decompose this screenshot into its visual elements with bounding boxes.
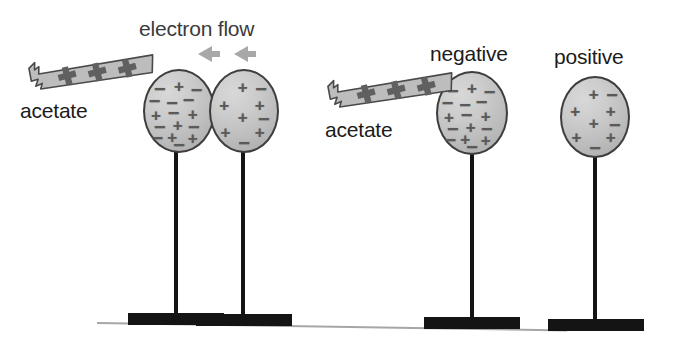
charge-minus-icon: − bbox=[238, 133, 250, 153]
stand-4-pole bbox=[593, 157, 597, 321]
label-negative: negative bbox=[430, 43, 508, 64]
electron-flow-arrows bbox=[186, 44, 258, 64]
charge-plus-icon: + bbox=[219, 96, 229, 113]
charge-minus-icon: − bbox=[151, 128, 163, 148]
charge-plus-icon: + bbox=[238, 79, 248, 96]
label-acetate-right: acetate bbox=[325, 119, 393, 140]
charge-plus-icon: + bbox=[255, 123, 265, 140]
sphere-4-positive[interactable]: +−+++−++− bbox=[560, 76, 630, 158]
charge-plus-icon: + bbox=[589, 85, 599, 102]
charge-minus-icon: − bbox=[589, 138, 601, 158]
charge-minus-icon: − bbox=[173, 135, 185, 155]
stand-2-pole bbox=[241, 150, 245, 316]
charge-plus-icon: + bbox=[606, 129, 616, 146]
diagram-canvas: −+−−−−+−+−+−−++− +−+++−++− −+−−−−+−+−+−−… bbox=[0, 0, 681, 346]
charge-plus-icon: + bbox=[188, 130, 198, 147]
label-positive: positive bbox=[554, 46, 624, 67]
charge-plus-icon: + bbox=[570, 102, 580, 119]
stand-3-base bbox=[424, 317, 520, 329]
sphere-2[interactable]: +−+++−++− bbox=[209, 69, 279, 153]
charge-plus-icon: + bbox=[572, 129, 582, 146]
stand-1-pole bbox=[174, 150, 178, 315]
charge-plus-icon: + bbox=[238, 109, 248, 126]
sphere-1[interactable]: −+−−−−+−+−+−−++− bbox=[143, 69, 215, 153]
acetate-strip-left[interactable] bbox=[24, 28, 160, 107]
label-electron-flow: electron flow bbox=[139, 18, 254, 39]
charge-plus-icon: + bbox=[481, 132, 491, 149]
charge-minus-icon: − bbox=[466, 137, 478, 157]
charge-plus-icon: + bbox=[589, 115, 599, 132]
charge-minus-icon: − bbox=[444, 130, 456, 150]
stand-2-base bbox=[196, 314, 292, 326]
charge-plus-icon: + bbox=[221, 123, 231, 140]
stand-3-pole bbox=[470, 152, 474, 319]
label-acetate-left: acetate bbox=[20, 100, 88, 121]
stand-4-base bbox=[548, 319, 644, 331]
